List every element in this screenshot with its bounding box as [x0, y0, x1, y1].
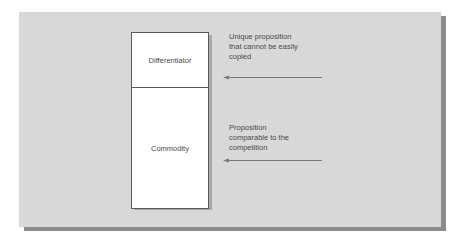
- segment-commodity: Commodity: [132, 88, 208, 208]
- annotation-line: that cannot be easily: [229, 42, 329, 52]
- arrow-left-icon: [223, 158, 322, 163]
- segment-label-differentiator: Differentiator: [149, 56, 192, 65]
- annotation-line: copied: [229, 52, 329, 62]
- annotation-line: Proposition: [229, 123, 329, 133]
- annotation-line: competition: [229, 143, 329, 153]
- annotation-line: Unique proposition: [229, 32, 329, 42]
- annotation-line: comparable to the: [229, 133, 329, 143]
- annotation-commodity: Proposition comparable to the competitio…: [229, 123, 329, 153]
- segment-label-commodity: Commodity: [151, 144, 189, 153]
- proposition-stack: Differentiator Commodity: [131, 32, 209, 209]
- segment-differentiator: Differentiator: [132, 33, 208, 88]
- annotation-differentiator: Unique proposition that cannot be easily…: [229, 32, 329, 62]
- arrow-left-icon: [223, 75, 322, 80]
